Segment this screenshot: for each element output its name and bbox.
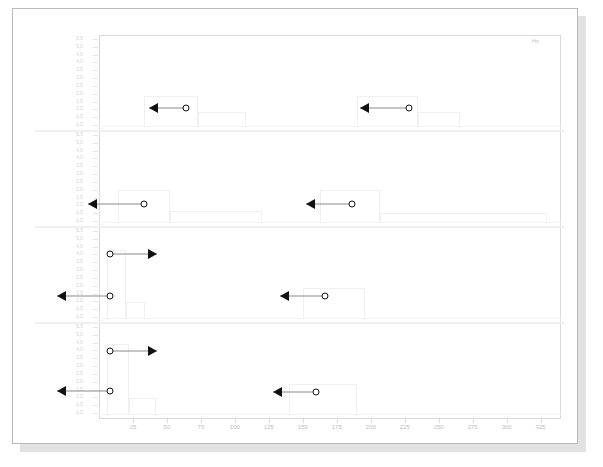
x-tick-label: 150 [298,424,308,431]
y-tick-mark [93,94,98,95]
y-tick-mark [93,350,98,351]
y-tick-mark [93,309,98,310]
y-tick-label: 0,5 [76,211,83,216]
y-tick-mark [93,366,98,367]
data-point-marker[interactable] [140,200,147,207]
x-tick-label: 25 [130,424,137,431]
y-tick-mark [93,247,98,248]
spectrum-step [107,344,129,414]
y-tick-label: 3,5 [76,260,83,265]
y-tick-label: 3,0 [76,364,83,369]
y-tick-mark [93,278,98,279]
y-tick-label: 0,0 [76,219,83,224]
x-tick-mark [167,419,168,423]
y-tick-mark [93,102,98,103]
y-tick-mark [93,213,98,214]
x-tick-label: 250 [434,424,444,431]
y-tick-mark [93,317,98,318]
x-axis: 255075100125150175200225250275300325 [99,419,561,439]
x-tick-mark [439,419,440,423]
y-tick-mark [93,374,98,375]
y-tick-mark [93,358,98,359]
spectrum-step [418,112,460,126]
trace-baseline-3 [99,318,561,319]
y-tick-label: 3,5 [76,68,83,73]
y-axis-panel-4: 5,55,04,54,03,53,02,52,01,51,00,50,0 [41,323,87,419]
y-tick-mark [93,270,98,271]
annotation-arrow-left-icon [273,387,282,397]
y-tick-label: 1,0 [76,107,83,112]
spectrum-step [303,288,366,318]
y-tick-label: 5,0 [76,141,83,146]
annotation-arrow-left-icon [306,199,315,209]
data-point-marker[interactable] [348,200,355,207]
y-tick-label: 5,5 [76,37,83,42]
y-tick-label: 0,0 [76,123,83,128]
data-point-marker[interactable] [405,104,412,111]
y-tick-label: 4,0 [76,348,83,353]
y-tick-mark [93,239,98,240]
x-tick-label: 325 [536,424,546,431]
spectrum-figure: 5,55,04,54,03,53,02,52,01,51,00,50,05,55… [35,23,565,437]
panel-separator-2 [35,226,565,228]
y-tick-mark [93,143,98,144]
data-point-marker[interactable] [106,388,113,395]
trace-baseline-2 [99,222,561,223]
y-tick-label: 2,5 [76,180,83,185]
annotation-arrow-left-icon [280,291,289,301]
y-tick-mark [93,135,98,136]
x-tick-mark [473,419,474,423]
y-tick-label: 0,5 [76,403,83,408]
y-tick-label: 5,0 [76,333,83,338]
data-point-marker[interactable] [106,250,113,257]
data-point-marker[interactable] [321,293,328,300]
y-tick-label: 4,0 [76,60,83,65]
y-tick-mark [93,294,98,295]
x-tick-label: 275 [468,424,478,431]
x-tick-label: 50 [164,424,171,431]
x-tick-label: 100 [230,424,240,431]
y-tick-mark [93,39,98,40]
y-tick-label: 1,5 [76,196,83,201]
y-tick-mark [93,47,98,48]
y-axis-panel-1: 5,55,04,54,03,53,02,52,01,51,00,50,0 [41,35,87,131]
y-tick-mark [93,413,98,414]
y-tick-mark [93,254,98,255]
x-axis-unit-label: Hz [532,38,539,44]
y-tick-label: 1,5 [76,100,83,105]
spectrum-step [289,384,357,414]
y-tick-label: 0,5 [76,307,83,312]
y-tick-mark [93,190,98,191]
y-tick-mark [93,166,98,167]
data-point-marker[interactable] [182,104,189,111]
data-point-marker[interactable] [313,389,320,396]
y-tick-label: 0,0 [76,411,83,416]
x-tick-label: 175 [332,424,342,431]
screenshot-root: 5,55,04,54,03,53,02,52,01,51,00,50,05,55… [0,0,603,467]
x-tick-label: 225 [400,424,410,431]
annotation-arrow-left-icon [57,291,66,301]
data-point-marker[interactable] [106,347,113,354]
y-tick-label: 4,5 [76,245,83,250]
y-tick-label: 4,5 [76,53,83,58]
y-tick-label: 1,0 [76,203,83,208]
y-tick-mark [93,397,98,398]
y-tick-label: 2,5 [76,84,83,89]
y-tick-mark [93,343,98,344]
y-tick-label: 5,5 [76,133,83,138]
panel-separator-3 [35,322,565,324]
y-tick-mark [93,158,98,159]
x-tick-mark [541,419,542,423]
y-tick-label: 2,0 [76,284,83,289]
x-tick-mark [303,419,304,423]
y-tick-mark [93,86,98,87]
y-tick-mark [93,301,98,302]
x-tick-mark [133,419,134,423]
data-point-marker[interactable] [106,293,113,300]
y-tick-mark [93,117,98,118]
annotation-arrow-left-icon [360,103,369,113]
spectrum-step [380,213,547,222]
y-axis-panel-2: 5,55,04,54,03,53,02,52,01,51,00,50,0 [41,131,87,227]
y-tick-label: 0,5 [76,115,83,120]
x-tick-label: 75 [198,424,205,431]
